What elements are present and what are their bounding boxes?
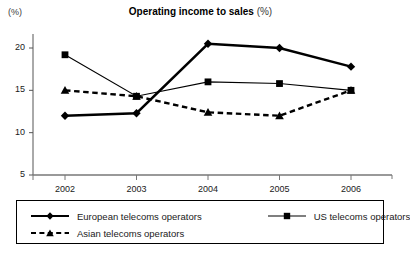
data-point-diamond-2005 bbox=[275, 44, 283, 52]
x-tick-2003: 2003 bbox=[115, 184, 159, 194]
legend-swatch-diamond-icon bbox=[29, 210, 71, 222]
series-line-square bbox=[65, 55, 351, 96]
series-group bbox=[61, 40, 356, 120]
legend-swatch-triangle-icon bbox=[29, 227, 71, 239]
y-tick-20: 20 bbox=[5, 42, 25, 52]
data-point-square-2004 bbox=[205, 78, 212, 85]
data-point-square-2005 bbox=[276, 80, 283, 87]
legend-row-1: European telecoms operators US telecoms … bbox=[29, 209, 410, 223]
axes-group bbox=[29, 34, 392, 180]
chart-legend: European telecoms operators US telecoms … bbox=[16, 200, 384, 244]
data-point-square-2002 bbox=[62, 51, 69, 58]
legend-row-2: Asian telecoms operators bbox=[29, 226, 184, 240]
y-tick-15: 15 bbox=[5, 84, 25, 94]
x-tick-2005: 2005 bbox=[258, 184, 302, 194]
legend-label-european: European telecoms operators bbox=[77, 211, 202, 222]
legend-label-us: US telecoms operators bbox=[314, 211, 410, 222]
x-tick-2004: 2004 bbox=[186, 184, 230, 194]
y-tick-5: 5 bbox=[5, 169, 25, 179]
legend-label-asian: Asian telecoms operators bbox=[77, 228, 184, 239]
y-tick-10: 10 bbox=[5, 127, 25, 137]
x-tick-2006: 2006 bbox=[329, 184, 373, 194]
x-tick-2002: 2002 bbox=[43, 184, 87, 194]
plot-area bbox=[0, 0, 401, 200]
legend-swatch-square-icon bbox=[266, 210, 308, 222]
data-point-diamond-2006 bbox=[347, 62, 355, 70]
data-point-diamond-2002 bbox=[61, 112, 69, 120]
legend-item-asian[interactable]: Asian telecoms operators bbox=[29, 227, 184, 239]
legend-item-us[interactable]: US telecoms operators bbox=[266, 210, 410, 222]
legend-item-european[interactable]: European telecoms operators bbox=[29, 210, 202, 222]
